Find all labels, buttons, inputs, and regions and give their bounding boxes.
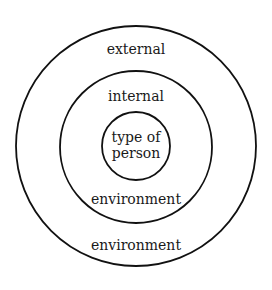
inner-label-line1: type of [56, 129, 216, 145]
middle-ring-label-top: internal [56, 88, 216, 104]
outer-ring-label-top: external [56, 41, 216, 57]
middle-ring-label-bottom: environment [56, 191, 216, 207]
outer-ring-label-bottom: environment [56, 237, 216, 253]
inner-label-line2: person [56, 145, 216, 161]
